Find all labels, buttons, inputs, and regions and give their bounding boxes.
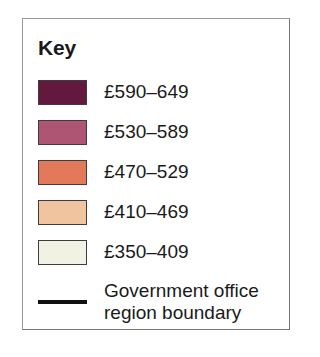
legend-item-label: £470–529 <box>104 161 189 182</box>
legend-item-label: £350–409 <box>104 241 189 262</box>
legend-item-350-409: £350–409 <box>38 232 281 272</box>
color-swatch-icon <box>38 120 87 145</box>
color-swatch-icon <box>38 160 87 185</box>
color-swatch-icon <box>38 200 87 225</box>
color-swatch-icon <box>38 240 87 265</box>
swatch-cell <box>38 120 104 145</box>
legend-title: Key <box>38 37 281 58</box>
legend-item-470-529: £470–529 <box>38 152 281 192</box>
boundary-label-line2: region boundary <box>104 302 259 324</box>
legend-content: Key £590–649 £530–589 £470–529 <box>38 27 281 321</box>
color-swatch-icon <box>38 80 87 105</box>
legend-items-list: £590–649 £530–589 £470–529 £410–469 <box>38 72 281 330</box>
legend-item-region-boundary: Government office region boundary <box>38 274 281 330</box>
legend-panel: Key £590–649 £530–589 £470–529 <box>22 18 290 330</box>
legend-item-label: £410–469 <box>104 201 189 222</box>
legend-item-530-589: £530–589 <box>38 112 281 152</box>
boundary-line-cell <box>38 300 104 304</box>
swatch-cell <box>38 160 104 185</box>
swatch-cell <box>38 200 104 225</box>
boundary-line-icon <box>38 300 87 304</box>
legend-item-590-649: £590–649 <box>38 72 281 112</box>
boundary-label-line1: Government office <box>104 280 259 302</box>
swatch-cell <box>38 240 104 265</box>
legend-item-410-469: £410–469 <box>38 192 281 232</box>
boundary-label: Government office region boundary <box>104 280 259 325</box>
legend-item-label: £590–649 <box>104 81 189 102</box>
legend-item-label: £530–589 <box>104 121 189 142</box>
swatch-cell <box>38 80 104 105</box>
